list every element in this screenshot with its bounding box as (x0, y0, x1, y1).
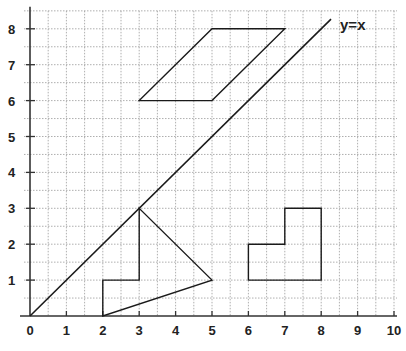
y-tick-label: 1 (8, 273, 15, 288)
y-tick-label: 4 (8, 165, 16, 180)
x-tick-label: 0 (26, 323, 33, 338)
x-tick-label: 3 (136, 323, 143, 338)
coordinate-plot: 01234567891012345678 y=x (0, 0, 406, 351)
x-tick-label: 6 (245, 323, 252, 338)
y-tick-label: 5 (8, 130, 15, 145)
axis-ticks: 01234567891012345678 (8, 22, 401, 338)
x-tick-label: 5 (208, 323, 215, 338)
grid-lines (24, 11, 397, 316)
x-tick-label: 10 (387, 323, 401, 338)
y-tick-label: 8 (8, 22, 15, 37)
x-tick-label: 7 (281, 323, 288, 338)
x-tick-label: 8 (318, 323, 325, 338)
line-y=x (30, 19, 331, 316)
annotations: y=x (340, 16, 366, 33)
x-tick-label: 2 (99, 323, 106, 338)
y-tick-label: 3 (8, 201, 15, 216)
y-tick-label: 6 (8, 94, 15, 109)
x-tick-label: 1 (63, 323, 70, 338)
x-tick-label: 4 (172, 323, 180, 338)
plotted-shapes (30, 19, 331, 316)
y-tick-label: 7 (8, 58, 15, 73)
line-label: y=x (340, 16, 366, 33)
x-tick-label: 9 (354, 323, 361, 338)
y-tick-label: 2 (8, 237, 15, 252)
